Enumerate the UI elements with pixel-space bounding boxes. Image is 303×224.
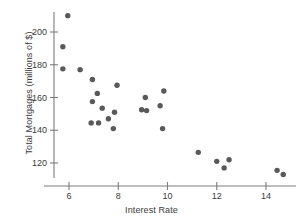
data-point [60, 66, 65, 71]
data-point [90, 77, 95, 82]
data-point [96, 120, 101, 125]
x-tick-label: 10 [162, 191, 172, 201]
data-point [100, 105, 105, 110]
data-point [281, 172, 286, 177]
data-point [60, 44, 65, 49]
x-tick-label: 8 [116, 191, 121, 201]
data-point [139, 107, 144, 112]
x-tick-label: 12 [212, 191, 222, 201]
x-tick-label: 14 [261, 191, 271, 201]
data-points [60, 13, 286, 177]
data-point [111, 126, 116, 131]
y-axis: 120140160180200 [32, 12, 58, 178]
data-point [214, 159, 219, 164]
x-axis-label: Interest Rate [0, 205, 303, 215]
y-tick-label: 180 [32, 60, 47, 70]
data-point [144, 108, 149, 113]
data-point [114, 83, 119, 88]
data-point [95, 91, 100, 96]
data-point [112, 110, 117, 115]
data-point [77, 67, 82, 72]
plot-area: 120140160180200 68101214 [0, 0, 303, 224]
data-point [157, 103, 162, 108]
x-tick-label: 6 [66, 191, 71, 201]
y-tick-label: 160 [32, 93, 47, 103]
y-tick-label: 120 [32, 158, 47, 168]
y-tick-label: 200 [32, 27, 47, 37]
data-point [221, 165, 226, 170]
data-point [274, 168, 279, 173]
data-point [160, 126, 165, 131]
data-point [161, 88, 166, 93]
data-point [106, 116, 111, 121]
y-tick-label: 140 [32, 125, 47, 135]
x-axis: 68101214 [44, 182, 296, 201]
data-point [88, 120, 93, 125]
scatter-plot-figure: Total Mortgages (millions of $) 12014016… [0, 0, 303, 224]
data-point [226, 157, 231, 162]
data-point [143, 95, 148, 100]
data-point [196, 150, 201, 155]
data-point [65, 13, 70, 18]
data-point [90, 99, 95, 104]
